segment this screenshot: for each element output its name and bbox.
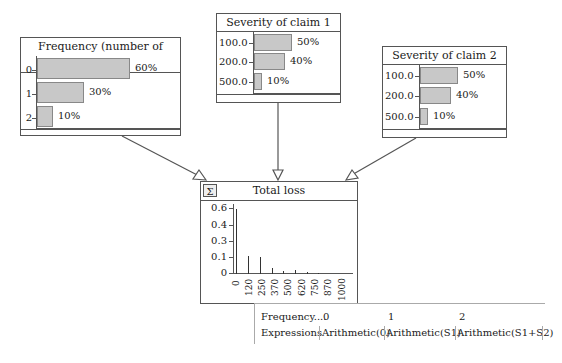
tick: [415, 117, 419, 118]
spike-200: [260, 257, 261, 274]
severity-2-pct-100: 50%: [463, 69, 485, 81]
tick: [249, 62, 253, 63]
severity-1-pct-100: 50%: [297, 36, 319, 48]
frame-divider: [217, 94, 340, 95]
severity-1-bar-500: [254, 73, 262, 90]
frequency-bar-0: [37, 58, 130, 79]
x-tick-750: 750: [310, 279, 320, 296]
severity-1-pct-500: 10%: [267, 75, 289, 87]
tick: [249, 82, 253, 83]
severity-claim-1-title: Severity of claim 1: [217, 14, 340, 32]
column-divider: [542, 326, 543, 340]
sigma-icon[interactable]: Σ: [203, 184, 217, 197]
severity-claim-1-node[interactable]: Severity of claim 1 50% 40% 10% 100.0 20…: [216, 13, 341, 103]
expression-table[interactable]: Frequency.... 0 1 2 Expressions Arithmet…: [254, 303, 545, 344]
y-tick-0.4: 0.4: [201, 220, 227, 230]
frame-divider: [21, 129, 180, 130]
frequency-state-1: 1: [24, 88, 32, 100]
x-tick-0: 0: [231, 280, 241, 286]
spike-400: [283, 271, 284, 274]
x-tick-120: 120: [244, 279, 254, 296]
x-tick-1000: 1000: [337, 278, 347, 301]
severity-2-bar-200: [420, 87, 451, 104]
total-loss-title: Total loss: [201, 182, 357, 201]
frequency-node[interactable]: Frequency (number of claims) 60% 30% 10%…: [20, 37, 181, 136]
severity-2-state-200: 200.0: [385, 90, 413, 102]
spike-100: [248, 256, 249, 274]
spike-600: [307, 272, 308, 274]
frequency-bar-2: [37, 106, 53, 127]
frequency-pct-0: 60%: [135, 62, 157, 74]
severity-2-state-500: 500.0: [385, 111, 413, 123]
table-cell-expression-2[interactable]: Arithmetic(S1+S2): [457, 326, 553, 340]
table-cell-frequency-0[interactable]: 0: [323, 310, 329, 324]
frequency-state-0: 0: [24, 64, 32, 76]
spike-0: [236, 209, 237, 274]
table-row-header-frequency: Frequency....: [261, 310, 326, 324]
tick: [32, 94, 36, 95]
tick: [249, 43, 253, 44]
frequency-bar-chart: 60% 30% 10%: [36, 56, 180, 129]
severity-1-state-500: 500.0: [219, 76, 247, 88]
severity-1-pct-200: 40%: [290, 55, 312, 67]
column-divider: [455, 326, 456, 340]
severity-2-bar-chart: 50% 40% 10%: [419, 65, 506, 129]
severity-2-state-100: 100.0: [385, 70, 413, 82]
frequency-state-2: 2: [24, 112, 32, 124]
y-tick-0.6: 0.6: [201, 203, 227, 213]
frame-divider: [383, 129, 506, 130]
spike-300: [272, 268, 273, 274]
x-tick-370: 370: [270, 279, 280, 296]
total-loss-plot-area: [233, 204, 353, 274]
tick: [415, 76, 419, 77]
column-divider: [319, 326, 320, 340]
x-tick-870: 870: [323, 279, 333, 296]
severity-1-state-200: 200.0: [219, 56, 247, 68]
severity-2-bar-100: [420, 67, 458, 84]
x-tick-500: 500: [283, 279, 293, 296]
severity-2-pct-200: 40%: [456, 89, 478, 101]
x-tick-250: 250: [257, 279, 267, 296]
table-cell-expression-0[interactable]: Arithmetic(0): [322, 326, 390, 340]
tick: [32, 118, 36, 119]
severity-1-state-100: 100.0: [219, 37, 247, 49]
table-cell-expression-1[interactable]: Arithmetic(S1): [386, 326, 461, 340]
table-cell-frequency-2[interactable]: 2: [459, 310, 465, 324]
tick: [415, 96, 419, 97]
tick: [32, 70, 36, 71]
table-row-header-expressions: Expressions: [261, 326, 322, 340]
total-loss-node[interactable]: Total loss Σ 0.6 0.4 0.3 0.1 0 0 120 250…: [200, 181, 358, 304]
severity-1-bar-chart: 50% 40% 10%: [253, 32, 340, 94]
frequency-pct-2: 10%: [58, 110, 80, 122]
severity-1-bar-200: [254, 53, 285, 70]
severity-1-bar-100: [254, 34, 292, 51]
y-tick-0.1: 0.1: [201, 252, 227, 262]
spike-500: [295, 270, 296, 274]
frequency-pct-1: 30%: [89, 86, 111, 98]
column-divider: [384, 326, 385, 340]
severity-claim-2-title: Severity of claim 2: [383, 47, 506, 65]
y-tick-0: 0: [201, 268, 227, 278]
spike-700: [318, 273, 319, 274]
severity-2-pct-500: 10%: [433, 110, 455, 122]
y-tick-0.3: 0.3: [201, 236, 227, 246]
table-cell-frequency-1[interactable]: 1: [388, 310, 394, 324]
severity-2-bar-500: [420, 108, 428, 125]
frequency-bar-1: [37, 82, 84, 103]
x-tick-620: 620: [297, 279, 307, 296]
severity-claim-2-node[interactable]: Severity of claim 2 50% 40% 10% 100.0 20…: [382, 46, 507, 138]
